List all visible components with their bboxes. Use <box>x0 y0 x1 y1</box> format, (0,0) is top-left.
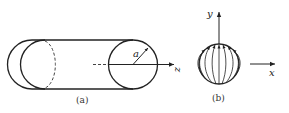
figure-b-cross-section: y x (b) <box>198 8 275 103</box>
y-axis-label: y <box>206 8 213 19</box>
z-axis-label: z <box>173 66 184 73</box>
x-axis-label: x <box>269 67 275 78</box>
radius-label: a <box>133 48 139 59</box>
figure-b-caption: (b) <box>212 93 225 103</box>
figure-a-caption: (a) <box>76 95 88 105</box>
cylinder-hidden-edge <box>45 41 55 88</box>
diagram-canvas: a z (a) y x (b) <box>0 0 289 113</box>
cylinder-left-end <box>20 40 45 89</box>
figure-a-cylinder: a z (a) <box>7 40 184 105</box>
